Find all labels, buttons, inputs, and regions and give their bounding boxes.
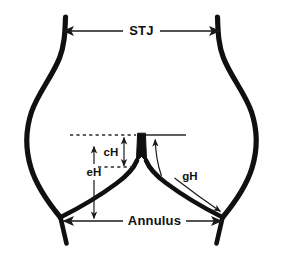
stj-label: STJ: [129, 23, 154, 38]
aortic-root-outline: [27, 17, 256, 244]
coaptation-column: [136, 133, 146, 161]
reference-lines: [70, 135, 186, 167]
left-aortic-wall: [27, 17, 66, 218]
annulus-dimension: Annulus: [64, 213, 222, 228]
aortic-root-diagram: STJ Annulus cH eH gH: [0, 0, 283, 259]
right-leaflet: [146, 161, 222, 218]
annulus-label: Annulus: [128, 213, 181, 228]
ch-dimension: cH: [103, 138, 124, 167]
diagram-canvas: STJ Annulus cH eH gH: [0, 0, 283, 259]
right-aortic-wall: [218, 17, 257, 218]
gh-dimension: gH: [155, 140, 220, 212]
eh-label: eH: [86, 166, 101, 178]
eh-dimension: eH: [86, 147, 101, 219]
stj-dimension: STJ: [64, 23, 220, 38]
gh-label: gH: [182, 170, 198, 182]
gh-arrow-upper: [155, 140, 161, 177]
ch-label: cH: [103, 146, 118, 158]
